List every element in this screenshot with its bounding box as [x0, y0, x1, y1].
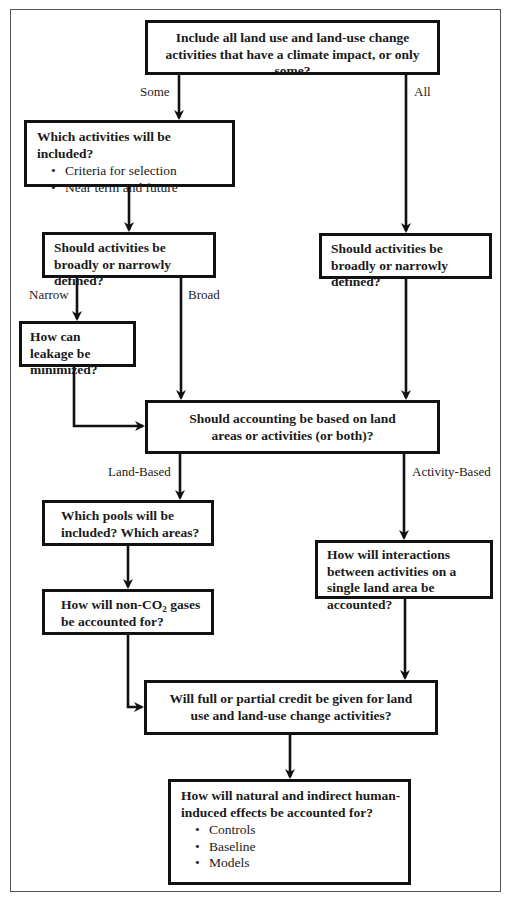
node-non-co2-question: How will non-CO2 gases be accounted for?: [61, 597, 207, 630]
node-credit-question: Will full or partial credit be given for…: [169, 691, 413, 724]
node-definition-right: Should activities be broadly or narrowly…: [319, 233, 492, 279]
node-interactions: How will interactions between activities…: [315, 540, 493, 599]
which-activities-bullet-list: Criteria for selection Near term and fut…: [37, 163, 222, 196]
node-scope-question: Include all land use and land-use change…: [158, 30, 427, 80]
node-interactions-question: How will interactions between activities…: [327, 547, 486, 613]
non-co2-prefix: How will non-CO: [61, 597, 162, 612]
node-definition-left: Should activities be broadly or narrowly…: [42, 232, 216, 278]
node-non-co2: How will non-CO2 gases be accounted for?: [42, 589, 214, 635]
bullet-near-term: Near term and future: [51, 180, 222, 197]
node-which-activities-question: Which activities will be included?: [37, 129, 222, 162]
edge-label-narrow: Narrow: [29, 287, 69, 302]
node-pools: Which pools will be included? Which area…: [42, 500, 214, 546]
node-pools-question: Which pools will be included? Which area…: [61, 508, 205, 541]
node-natural-effects-question: How will natural and indirect human-indu…: [181, 788, 402, 821]
node-leakage: How can leakage be minimized?: [19, 321, 136, 367]
node-accounting-basis-question: Should accounting be based on land areas…: [188, 411, 397, 444]
edge-label-activity-based: Activity-Based: [412, 464, 491, 479]
edge-label-some: Some: [140, 84, 170, 99]
edge-label-land-based: Land-Based: [108, 464, 171, 479]
bullet-models: Models: [195, 855, 402, 872]
node-definition-left-question: Should activities be broadly or narrowly…: [54, 240, 203, 290]
bullet-baseline: Baseline: [195, 839, 402, 856]
bullet-criteria: Criteria for selection: [51, 163, 222, 180]
bullet-controls: Controls: [195, 822, 402, 839]
natural-effects-bullet-list: Controls Baseline Models: [181, 822, 402, 872]
node-which-activities: Which activities will be included? Crite…: [24, 120, 235, 187]
node-scope: Include all land use and land-use change…: [145, 20, 440, 75]
edge-label-all: All: [414, 84, 431, 99]
node-credit: Will full or partial credit be given for…: [144, 680, 438, 735]
node-natural-effects: How will natural and indirect human-indu…: [168, 779, 411, 885]
node-definition-right-question: Should activities be broadly or narrowly…: [331, 241, 479, 291]
node-accounting-basis: Should accounting be based on land areas…: [145, 400, 440, 454]
edge-label-broad: Broad: [188, 287, 220, 302]
node-leakage-question: How can leakage be minimized?: [30, 329, 123, 379]
